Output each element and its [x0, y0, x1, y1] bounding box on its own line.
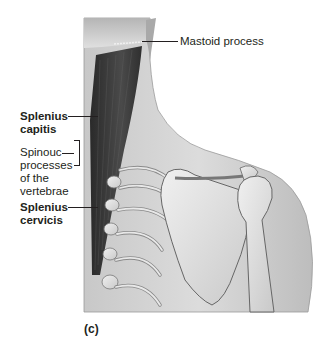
mastoid-leader [142, 41, 178, 42]
label-line: vertebrae [20, 185, 72, 198]
panel-letter: (c) [84, 322, 99, 336]
label-mastoid-process: Mastoid process [180, 35, 264, 48]
label-line: Splenius [20, 201, 68, 214]
label-line: capitis [20, 123, 68, 136]
splenius-capitis-leader [68, 116, 98, 117]
label-splenius-capitis: Splenius capitis [20, 110, 68, 136]
label-line: Splenius [20, 110, 68, 123]
label-line: of the [20, 172, 72, 185]
label-line: cervicis [20, 214, 68, 227]
label-line: processes [20, 159, 72, 172]
spinous-leader [62, 153, 74, 154]
label-splenius-cervicis: Splenius cervicis [20, 201, 68, 227]
spinous-bracket [74, 140, 80, 166]
splenius-cervicis-leader [68, 207, 98, 208]
